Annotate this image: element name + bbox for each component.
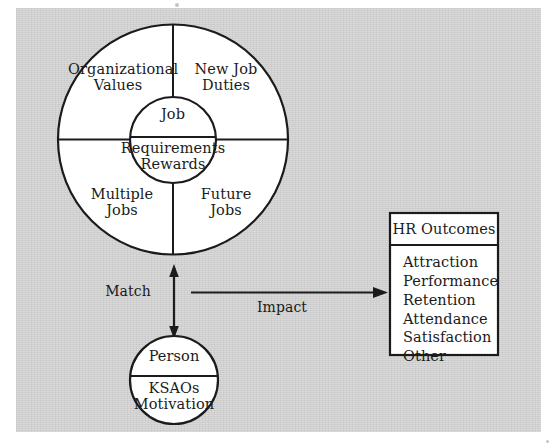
quadrant-label-multiple-jobs: Multiple Jobs xyxy=(80,186,164,218)
figure-canvas: Organizational Values New Job Duties Mul… xyxy=(0,0,559,448)
hr-outcome-item: Attraction xyxy=(403,253,498,272)
job-core-bottom-label: Requirements Rewards xyxy=(118,140,228,172)
quadrant-label-line2: Duties xyxy=(184,77,268,93)
quadrant-label-new-job-duties: New Job Duties xyxy=(184,61,268,93)
person-top-label: Person xyxy=(134,348,214,364)
hr-outcome-item: Other xyxy=(403,347,498,366)
impact-label: Impact xyxy=(250,300,314,316)
quadrant-label-line1: Multiple xyxy=(80,186,164,202)
job-core-top-label: Job xyxy=(133,106,213,122)
job-core-requirements: Requirements xyxy=(118,140,228,156)
quadrant-label-line1: Future xyxy=(186,186,266,202)
hr-outcome-item: Performance xyxy=(403,272,498,291)
person-ksaos: KSAOs xyxy=(119,380,229,396)
quadrant-label-line2: Jobs xyxy=(186,202,266,218)
hr-outcomes-title: HR Outcomes xyxy=(391,221,497,237)
quadrant-label-line2: Values xyxy=(68,77,168,93)
person-bottom-label: KSAOs Motivation xyxy=(119,380,229,412)
quadrant-label-future-jobs: Future Jobs xyxy=(186,186,266,218)
match-arrow-head-up xyxy=(169,264,179,277)
quadrant-label-line2: Jobs xyxy=(80,202,164,218)
quadrant-label-line1: New Job xyxy=(184,61,268,77)
match-label: Match xyxy=(98,284,158,300)
job-core-rewards: Rewards xyxy=(118,156,228,172)
quadrant-label-organizational-values: Organizational Values xyxy=(68,61,168,93)
hr-outcome-item: Satisfaction xyxy=(403,328,498,347)
hr-outcome-item: Retention xyxy=(403,291,498,310)
person-motivation: Motivation xyxy=(119,396,229,412)
hr-outcome-item: Attendance xyxy=(403,310,498,329)
quadrant-label-line1: Organizational xyxy=(68,61,168,77)
impact-arrow-head-right xyxy=(373,287,388,298)
hr-outcomes-list: Attraction Performance Retention Attenda… xyxy=(403,253,498,366)
